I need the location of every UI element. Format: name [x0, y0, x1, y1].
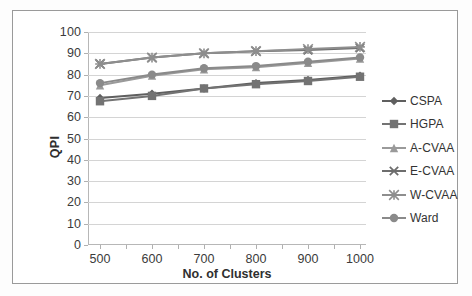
legend: CSPAHGPAA-CVAAE-CVAAW-CVAAWard — [381, 89, 467, 230]
legend-label: CSPA — [410, 94, 442, 108]
y-axis-tick-label: 10 — [67, 217, 81, 231]
data-point-square — [252, 80, 260, 88]
data-point-circle — [390, 214, 398, 222]
x-axis-minor-tick — [334, 245, 335, 249]
y-axis-tick-label: 20 — [67, 195, 81, 209]
x-axis-tick — [360, 245, 361, 249]
data-point-star — [303, 44, 313, 54]
legend-marker-triangle-icon — [381, 141, 407, 155]
data-point-square — [356, 73, 364, 81]
legend-item-cspa[interactable]: CSPA — [381, 89, 467, 113]
legend-marker-cross-icon — [381, 164, 407, 178]
series-ward — [96, 53, 364, 87]
data-point-circle — [148, 70, 156, 78]
x-axis-tick-label: 700 — [194, 252, 215, 266]
y-axis-tick-label: 80 — [67, 68, 81, 82]
data-point-star — [199, 48, 209, 58]
data-point-star — [389, 190, 399, 200]
y-axis-tick-label: 90 — [67, 46, 81, 60]
y-axis-tick-label: 100 — [60, 25, 81, 39]
x-axis-tick-label: 600 — [142, 252, 163, 266]
y-axis-tick — [84, 245, 88, 246]
x-axis-tick-label: 900 — [298, 252, 319, 266]
data-point-star — [95, 59, 105, 69]
x-axis-minor-tick — [126, 245, 127, 249]
legend-label: Ward — [410, 211, 439, 225]
legend-label: W-CVAA — [410, 188, 458, 202]
data-point-star — [355, 42, 365, 52]
data-point-star — [147, 53, 157, 63]
data-point-square — [148, 92, 156, 100]
data-point-circle — [356, 53, 364, 61]
data-point-star — [251, 46, 261, 56]
x-axis-minor-tick — [178, 245, 179, 249]
plot-area: 0102030405060708090100 50060070080090010… — [88, 32, 366, 245]
x-axis-tick-label: 1000 — [346, 252, 374, 266]
legend-marker-star-icon — [381, 188, 407, 202]
x-axis-tick — [204, 245, 205, 249]
x-axis-tick — [308, 245, 309, 249]
data-point-square — [304, 77, 312, 85]
series-line — [100, 59, 360, 86]
y-axis-tick-label: 70 — [67, 89, 81, 103]
x-axis-minor-tick — [282, 245, 283, 249]
x-axis-tick-label: 800 — [246, 252, 267, 266]
data-point-circle — [200, 64, 208, 72]
y-axis-tick-label: 30 — [67, 174, 81, 188]
y-axis-tick-label: 50 — [67, 132, 81, 146]
x-axis-tick-label: 500 — [90, 252, 111, 266]
data-point-square — [96, 97, 104, 105]
legend-label: HGPA — [410, 117, 444, 131]
legend-item-hgpa[interactable]: HGPA — [381, 113, 467, 137]
series-line — [100, 77, 360, 101]
legend-item-w-cvaa[interactable]: W-CVAA — [381, 183, 467, 207]
x-axis-minor-tick — [230, 245, 231, 249]
legend-item-e-cvaa[interactable]: E-CVAA — [381, 160, 467, 184]
y-axis-tick-label: 40 — [67, 153, 81, 167]
x-axis-tick — [100, 245, 101, 249]
data-point-square — [200, 84, 208, 92]
data-point-circle — [96, 79, 104, 87]
x-axis-tick — [152, 245, 153, 249]
chart-frame: QPI No. of Clusters 01020304050607080901… — [12, 10, 458, 284]
y-axis-title: QPI — [48, 136, 62, 158]
legend-marker-diamond-icon — [381, 94, 407, 108]
series-w-cvaa — [95, 42, 365, 69]
legend-label: A-CVAA — [410, 141, 454, 155]
y-axis-tick-label: 0 — [74, 238, 81, 252]
legend-item-a-cvaa[interactable]: A-CVAA — [381, 136, 467, 160]
x-axis-tick — [256, 245, 257, 249]
legend-item-ward[interactable]: Ward — [381, 207, 467, 231]
x-axis-title: No. of Clusters — [88, 267, 366, 281]
legend-label: E-CVAA — [410, 164, 454, 178]
y-axis-tick-label: 60 — [67, 110, 81, 124]
data-point-circle — [304, 58, 312, 66]
data-point-diamond — [390, 97, 398, 105]
legend-marker-square-icon — [381, 117, 407, 131]
legend-marker-circle-icon — [381, 211, 407, 225]
figure-root: QPI No. of Clusters 01020304050607080901… — [0, 0, 472, 296]
series-layer — [88, 32, 366, 245]
data-point-circle — [252, 62, 260, 70]
data-point-square — [390, 120, 398, 128]
